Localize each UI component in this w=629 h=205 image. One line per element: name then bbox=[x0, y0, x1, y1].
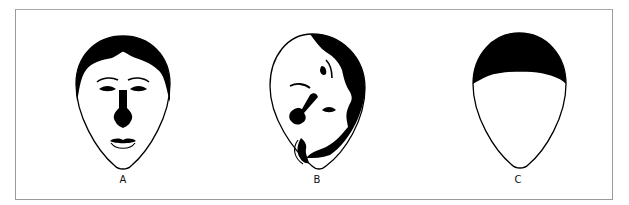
figure-label-b: B bbox=[307, 174, 327, 185]
figure-label-a: A bbox=[113, 174, 133, 185]
figure-label-c: C bbox=[508, 174, 528, 185]
